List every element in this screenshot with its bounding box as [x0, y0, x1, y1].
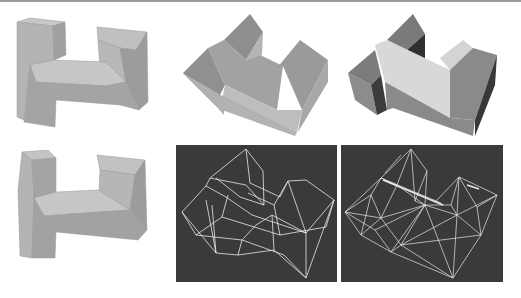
top-rule [0, 0, 521, 2]
shaded-model-front-alt-icon [10, 150, 160, 275]
panel-top-right-shaded-model [345, 10, 510, 140]
shaded-model-front-icon [10, 10, 160, 135]
panel-bottom-middle-wireframe [176, 145, 337, 282]
panel-bottom-left-shaded-model [10, 150, 160, 275]
panel-top-left-shaded-model [10, 10, 160, 135]
shaded-model-iso-icon [180, 10, 340, 140]
panel-top-middle-shaded-model [180, 10, 340, 140]
panel-bottom-right-wireframe [341, 145, 503, 282]
shaded-model-contrast-icon [345, 10, 510, 140]
wireframe-coarse-mesh-icon [176, 145, 337, 282]
wireframe-dense-mesh-icon [341, 145, 503, 282]
